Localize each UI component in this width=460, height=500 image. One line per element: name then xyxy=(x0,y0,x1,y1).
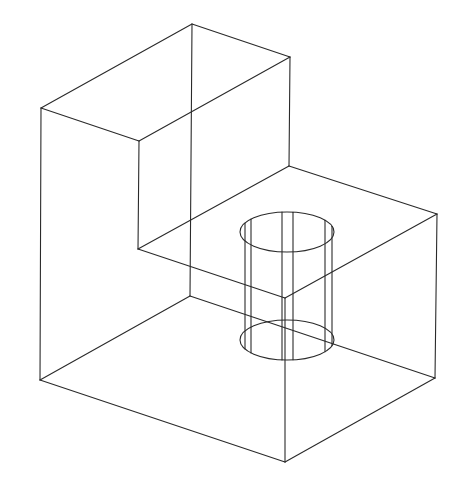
edge-step_right-bottom_right xyxy=(435,214,437,378)
cylinder-top-ellipse xyxy=(240,212,334,252)
edge-top_back-top_right xyxy=(192,24,290,57)
wireframe-drawing xyxy=(0,0,460,500)
edge-inner_front_top-top_right xyxy=(139,57,290,141)
edge-hidden_back_bottom-bottom_right xyxy=(190,296,435,378)
edge-inner_corner-step_front xyxy=(138,249,285,298)
edge-inner_front_top-inner_corner xyxy=(138,141,139,249)
edge-top_left_front-inner_front_top xyxy=(41,108,139,141)
edge-step_front-step_right xyxy=(285,214,437,298)
edge-top_left_front-bottom_left xyxy=(40,108,41,380)
block-edges xyxy=(40,24,437,462)
edge-bottom_front-bottom_right xyxy=(285,378,435,462)
edge-bottom_left-hidden_back_bottom xyxy=(40,296,190,380)
edge-top_back-hidden_back_bottom xyxy=(190,24,192,296)
edge-top_left_front-top_back xyxy=(41,24,192,108)
cylinder-generator-lines xyxy=(245,212,332,360)
edge-top_right-step_back xyxy=(289,57,290,166)
edge-bottom_left-bottom_front xyxy=(40,380,285,462)
cylinder xyxy=(240,212,334,360)
edge-step_back-step_right xyxy=(289,166,437,214)
edge-inner_corner-step_back xyxy=(138,166,289,249)
